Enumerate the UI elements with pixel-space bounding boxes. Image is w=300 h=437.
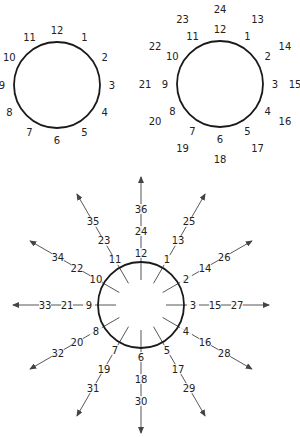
clock-24-diagram: 121234567891011241314151617181920212223 <box>139 4 300 165</box>
clock-number-label: 3 <box>109 80 115 91</box>
clock-number-label: 5 <box>81 127 87 138</box>
clock-number-label: 3 <box>272 79 278 90</box>
clock-number-label: 16 <box>199 337 212 348</box>
clock-number-label: 18 <box>135 374 148 385</box>
clock-number-label: 33 <box>39 300 52 311</box>
clock-number-label: 11 <box>186 31 199 42</box>
clock-number-label: 1 <box>164 254 170 265</box>
clock-number-label: 1 <box>244 31 250 42</box>
clock-number-label: 2 <box>101 52 107 63</box>
clock-number-label: 12 <box>214 24 227 35</box>
clock-number-label: 9 <box>86 300 92 311</box>
clock-number-label: 17 <box>172 364 185 375</box>
clock-number-label: 28 <box>218 348 231 359</box>
clock-number-label: 5 <box>244 126 250 137</box>
clock-number-label: 25 <box>183 216 196 227</box>
clock-number-label: 24 <box>135 226 148 237</box>
clock-number-label: 34 <box>51 252 64 263</box>
clock-number-label: 13 <box>172 235 185 246</box>
clock-number-label: 16 <box>279 116 292 127</box>
clock-number-label: 35 <box>87 216 100 227</box>
clock-number-label: 19 <box>176 143 189 154</box>
clock-number-label: 9 <box>162 79 168 90</box>
clock-number-label: 5 <box>164 345 170 356</box>
clock-number-label: 21 <box>61 300 74 311</box>
clock-number-label: 13 <box>251 14 264 25</box>
clock-number-label: 15 <box>289 79 300 90</box>
clock-number-label: 4 <box>183 326 189 337</box>
clock-number-label: 27 <box>231 300 244 311</box>
clock-number-label: 12 <box>51 25 64 36</box>
clock-number-label: 1 <box>81 32 87 43</box>
clock-number-label: 6 <box>138 352 144 363</box>
clock-number-label: 11 <box>23 32 36 43</box>
clock-number-label: 10 <box>166 51 179 62</box>
clock-circle <box>14 42 100 128</box>
clock-number-label: 6 <box>54 135 60 146</box>
clock-number-label: 9 <box>0 80 5 91</box>
clock-number-label: 8 <box>169 106 175 117</box>
clock-36-ray-diagram: 1212345678910112413141516171819202122233… <box>13 177 269 433</box>
clock-number-label: 26 <box>218 252 231 263</box>
clock-number-label: 11 <box>109 254 122 265</box>
clock-number-label: 10 <box>90 274 103 285</box>
clock-number-diagrams: 121234567891011 121234567891011241314151… <box>0 0 300 437</box>
clock-number-label: 10 <box>3 52 16 63</box>
clock-number-label: 18 <box>214 154 227 165</box>
clock-number-label: 23 <box>176 14 189 25</box>
clock-number-label: 19 <box>98 364 111 375</box>
clock-12-diagram: 121234567891011 <box>0 25 115 146</box>
clock-number-label: 8 <box>6 107 12 118</box>
clock-number-label: 6 <box>217 134 223 145</box>
clock-number-label: 7 <box>26 127 32 138</box>
clock-number-label: 23 <box>98 235 111 246</box>
clock-circle <box>177 41 263 127</box>
clock-number-label: 12 <box>135 248 148 259</box>
clock-number-label: 31 <box>87 383 100 394</box>
clock-number-label: 29 <box>183 383 196 394</box>
clock-number-label: 22 <box>149 41 162 52</box>
clock-number-label: 24 <box>214 4 227 15</box>
clock-number-label: 32 <box>51 348 64 359</box>
clock-number-label: 7 <box>189 126 195 137</box>
clock-number-label: 30 <box>135 396 148 407</box>
clock-number-label: 15 <box>209 300 222 311</box>
clock-number-label: 20 <box>149 116 162 127</box>
clock-number-label: 36 <box>135 204 148 215</box>
clock-number-label: 21 <box>139 79 152 90</box>
clock-number-label: 8 <box>93 326 99 337</box>
clock-number-label: 17 <box>251 143 264 154</box>
clock-number-label: 3 <box>190 300 196 311</box>
clock-number-label: 14 <box>279 41 292 52</box>
clock-number-label: 2 <box>183 274 189 285</box>
clock-number-label: 22 <box>71 263 84 274</box>
clock-number-label: 7 <box>112 345 118 356</box>
clock-number-label: 20 <box>71 337 84 348</box>
clock-number-label: 2 <box>264 51 270 62</box>
clock-number-label: 14 <box>199 263 212 274</box>
clock-number-label: 4 <box>101 107 107 118</box>
clock-number-label: 4 <box>264 106 270 117</box>
